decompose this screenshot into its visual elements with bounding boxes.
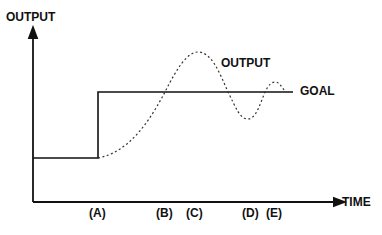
y-axis-label: OUTPUT <box>6 10 55 24</box>
marker-b: (B) <box>156 206 173 220</box>
marker-a: (A) <box>89 206 106 220</box>
marker-e: (E) <box>266 206 282 220</box>
goal-line <box>33 92 293 158</box>
marker-d: (D) <box>242 206 259 220</box>
x-axis-label: TIME <box>342 195 371 209</box>
marker-c: (C) <box>186 206 203 220</box>
curve-label: OUTPUT <box>221 56 270 70</box>
goal-label: GOAL <box>300 84 335 98</box>
control-diagram <box>0 0 382 235</box>
